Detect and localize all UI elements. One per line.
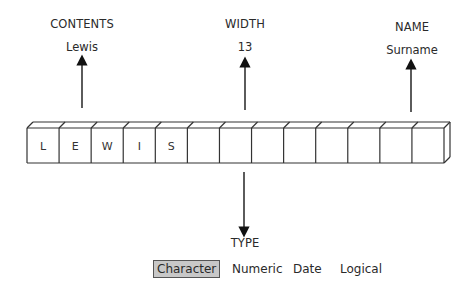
- type-options: Character Numeric Date Logical: [0, 260, 473, 280]
- cell-top-diagonal: [91, 122, 97, 128]
- cell-top-diagonal: [284, 122, 290, 128]
- type-option-character[interactable]: Character: [153, 260, 220, 278]
- cell-letter: L: [40, 140, 47, 153]
- type-option-date[interactable]: Date: [293, 260, 322, 278]
- type-heading: TYPE: [231, 236, 260, 250]
- cell-top-diagonal: [412, 122, 418, 128]
- cell-letter: I: [138, 140, 141, 153]
- cell-top-diagonal: [155, 122, 161, 128]
- cell-top-diagonal: [27, 122, 33, 128]
- cell-top-diagonal: [219, 122, 225, 128]
- cell-top-diagonal: [348, 122, 354, 128]
- cell-row-side-bottom: [444, 157, 450, 163]
- cell-letter: W: [102, 140, 113, 153]
- cell-top-diagonal: [123, 122, 129, 128]
- cell-top-diagonal: [252, 122, 258, 128]
- cell-letter: S: [168, 140, 175, 153]
- field-cells: LEWIS: [27, 122, 450, 163]
- cell-top-diagonal: [444, 122, 450, 128]
- cell-letter: E: [72, 140, 79, 153]
- field-diagram: LEWIS: [0, 0, 473, 295]
- cell-top-diagonal: [316, 122, 322, 128]
- cell-top-diagonal: [187, 122, 193, 128]
- type-option-logical[interactable]: Logical: [340, 260, 382, 278]
- cell-top-diagonal: [59, 122, 65, 128]
- cell-top-diagonal: [380, 122, 386, 128]
- type-option-numeric[interactable]: Numeric: [232, 260, 283, 278]
